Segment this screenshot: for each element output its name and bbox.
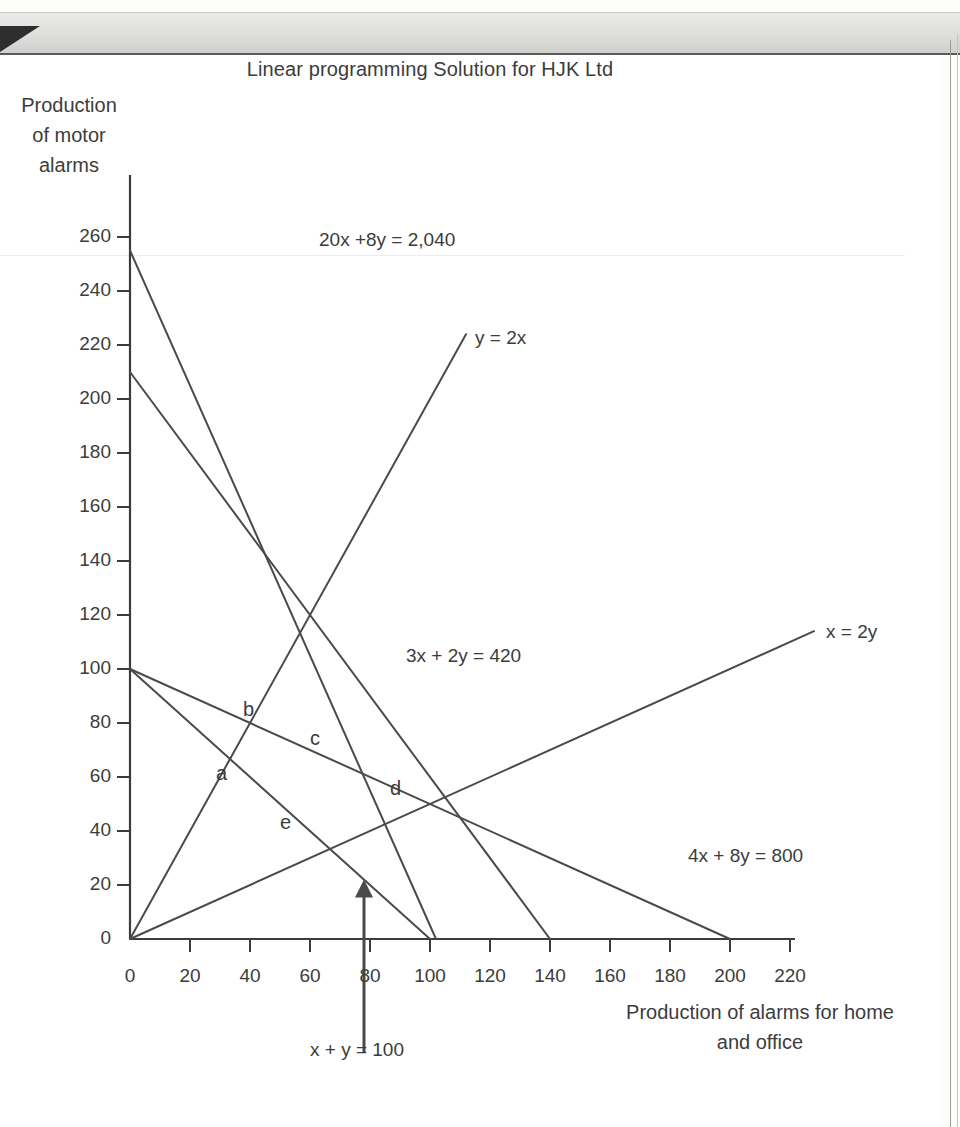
vertex-label-b: b <box>243 698 254 721</box>
x-tick-label: 200 <box>705 965 755 987</box>
y-tick-label: 0 <box>55 927 111 949</box>
y-tick-label: 80 <box>55 711 111 733</box>
x-tick-label: 20 <box>165 965 215 987</box>
y-tick-label: 240 <box>55 279 111 301</box>
constraint-line <box>130 251 436 940</box>
x-tick-label: 140 <box>525 965 575 987</box>
y-tick-label: 60 <box>55 765 111 787</box>
constraint-lines-group <box>130 251 814 940</box>
y-tick-label: 220 <box>55 333 111 355</box>
x-tick-label: 120 <box>465 965 515 987</box>
y-tick-label: 200 <box>55 387 111 409</box>
x-tick-label: 160 <box>585 965 635 987</box>
constraint-equation-label: 3x + 2y = 420 <box>406 645 521 667</box>
scanned-page: Linear programming Solution for HJK Ltd … <box>0 0 960 1127</box>
y-tick-label: 260 <box>55 225 111 247</box>
x-tick-label: 0 <box>105 965 155 987</box>
constraint-line <box>130 669 430 939</box>
constraint-line <box>130 631 814 939</box>
x-tick-label: 180 <box>645 965 695 987</box>
vertex-label-e: e <box>280 811 291 834</box>
constraint-equation-label: x + y = 100 <box>310 1039 404 1061</box>
vertex-label-d: d <box>390 777 401 800</box>
constraint-equation-label: y = 2x <box>475 327 526 349</box>
scan-corner-wedge-icon <box>0 26 40 52</box>
scan-top-band <box>0 12 960 55</box>
x-tick-label: 220 <box>765 965 815 987</box>
constraint-line <box>130 334 466 939</box>
constraint-equation-label: 20x +8y = 2,040 <box>319 229 455 251</box>
linear-programming-chart: Linear programming Solution for HJK Ltd … <box>0 52 942 1127</box>
vertex-label-c: c <box>310 727 320 750</box>
y-tick-label: 120 <box>55 603 111 625</box>
constraint-equation-label: 4x + 8y = 800 <box>688 845 803 867</box>
y-tick-label: 40 <box>55 819 111 841</box>
y-tick-label: 140 <box>55 549 111 571</box>
x-tick-label: 100 <box>405 965 455 987</box>
constraint-equation-label: x = 2y <box>826 621 877 643</box>
y-tick-label: 100 <box>55 657 111 679</box>
callout-arrow-head-icon <box>355 880 373 898</box>
x-tick-label: 60 <box>285 965 335 987</box>
x-tick-label: 40 <box>225 965 275 987</box>
y-tick-label: 160 <box>55 495 111 517</box>
axes-group <box>130 175 795 939</box>
y-tick-label: 180 <box>55 441 111 463</box>
y-tick-label: 20 <box>55 873 111 895</box>
vertex-label-a: a <box>216 762 227 785</box>
x-tick-label: 80 <box>345 965 395 987</box>
page-border-outer <box>957 34 958 1127</box>
page-border-inner <box>950 40 951 1127</box>
